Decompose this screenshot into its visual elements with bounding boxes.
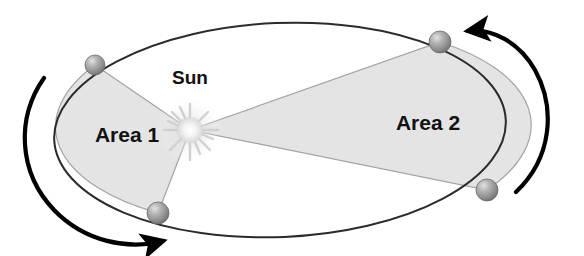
diagram-canvas: Sun Area 1 Area 2 (0, 0, 584, 256)
kepler-second-law-diagram: Sun Area 1 Area 2 (0, 0, 584, 256)
planet-upper-left (85, 55, 105, 75)
swept-area-2-sector (190, 42, 531, 190)
area-2-label: Area 2 (396, 111, 460, 134)
sun-body (177, 117, 204, 144)
sun-group (156, 96, 224, 164)
swept-area-2-group (190, 42, 531, 190)
area-1-label: Area 1 (95, 123, 160, 146)
planet-lower-right (476, 179, 498, 201)
planet-upper-right (429, 31, 451, 53)
planet-lower-left (147, 202, 169, 224)
sun-label: Sun (172, 67, 208, 88)
